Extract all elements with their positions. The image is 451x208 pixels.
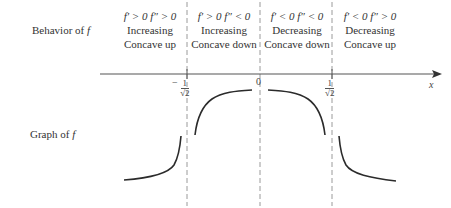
interval-3-first-derivative: f′ < 0 [271,10,295,22]
interval-2: f′ > 0 f″ < 0 Increasing Concave down [188,9,260,51]
interval-3-conditions: f′ < 0 f″ < 0 [261,9,333,23]
interval-4-conditions: f′ < 0 f″ > 0 [334,9,406,23]
tick-zero-value: 0 [256,76,261,87]
interval-2-concavity: Concave down [188,37,260,51]
interval-3-second-derivative: f″ < 0 [297,10,323,22]
interval-4: f′ < 0 f″ > 0 Decreasing Concave up [334,9,406,51]
graph-label-text: Graph of [30,128,69,140]
interval-1-conditions: f′ > 0 f″ > 0 [114,9,186,23]
curve-concave-down-decreasing [268,90,325,135]
tick-zero: 0 [256,76,261,87]
interval-4-monotonicity: Decreasing [334,23,406,37]
concavity-sign-chart: Behavior of f Graph of f f′ > 0 f″ > 0 I… [0,0,451,208]
tick-neg-fraction: 1 √2 [180,79,189,98]
tick-neg-sign: − [172,77,178,88]
interval-2-monotonicity: Increasing [188,23,260,37]
behavior-label-text: Behavior of [32,24,84,36]
interval-2-second-derivative: f″ < 0 [224,10,250,22]
graph-row-label: Graph of f [30,128,75,140]
interval-2-conditions: f′ > 0 f″ < 0 [188,9,260,23]
tick-pos-inv-sqrt2: 1 √2 [325,77,334,98]
interval-2-first-derivative: f′ > 0 [198,10,222,22]
interval-1-monotonicity: Increasing [114,23,186,37]
curve-concave-down-increasing [195,90,252,135]
interval-1: f′ > 0 f″ > 0 Increasing Concave up [114,9,186,51]
interval-1-second-derivative: f″ > 0 [150,10,176,22]
tick-pos-denominator: √2 [325,89,334,98]
interval-1-concavity: Concave up [114,37,186,51]
behavior-row-label: Behavior of f [32,24,90,36]
interval-1-first-derivative: f′ > 0 [124,10,148,22]
interval-3-monotonicity: Decreasing [261,23,333,37]
interval-3-concavity: Concave down [261,37,333,51]
interval-4-second-derivative: f″ > 0 [370,10,396,22]
tick-neg-denominator: √2 [180,89,189,98]
behavior-label-var: f [87,24,90,36]
interval-4-concavity: Concave up [334,37,406,51]
curve-concave-up-increasing [124,136,181,180]
x-axis-label: x [429,79,433,90]
curve-concave-up-decreasing [339,136,396,181]
tick-neg-inv-sqrt2: − 1 √2 [172,77,190,98]
graph-label-var: f [72,128,75,140]
interval-3: f′ < 0 f″ < 0 Decreasing Concave down [261,9,333,51]
tick-pos-fraction: 1 √2 [325,79,334,98]
interval-4-first-derivative: f′ < 0 [344,10,368,22]
